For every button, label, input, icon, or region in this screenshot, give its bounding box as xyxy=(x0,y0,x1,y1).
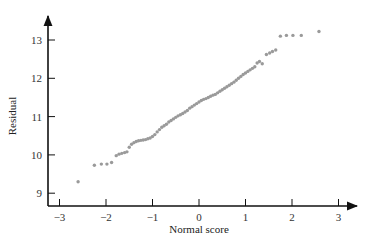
data-point xyxy=(279,34,282,37)
y-tick-label: 9 xyxy=(37,187,43,199)
data-point xyxy=(76,180,79,183)
data-point xyxy=(265,53,268,56)
data-point xyxy=(125,150,128,153)
data-point xyxy=(110,161,113,164)
data-point xyxy=(261,62,264,65)
x-axis-title: Normal score xyxy=(169,223,229,235)
data-point xyxy=(100,162,103,165)
points-layer xyxy=(76,30,320,184)
y-ticks: 910111213 xyxy=(31,34,55,199)
data-point xyxy=(285,34,288,37)
x-ticks: −3−2−10123 xyxy=(54,199,342,223)
data-point xyxy=(274,48,277,51)
y-axis-title: Residual xyxy=(6,97,18,136)
data-point xyxy=(317,30,320,33)
y-tick-label: 10 xyxy=(31,149,43,161)
x-tick-label: 3 xyxy=(336,211,342,223)
data-point xyxy=(128,146,131,149)
data-point xyxy=(300,34,303,37)
data-point xyxy=(271,50,274,53)
x-tick-label: −3 xyxy=(54,211,66,223)
x-tick-label: −1 xyxy=(147,211,159,223)
data-point xyxy=(105,162,108,165)
data-point xyxy=(253,65,256,68)
normal-probability-plot: 910111213 −3−2−10123 Normal score Residu… xyxy=(0,0,379,244)
y-tick-label: 13 xyxy=(31,34,43,46)
data-point xyxy=(93,164,96,167)
data-point xyxy=(291,34,294,37)
x-tick-label: 0 xyxy=(196,211,202,223)
x-tick-label: 2 xyxy=(289,211,295,223)
x-tick-label: 1 xyxy=(243,211,249,223)
data-point xyxy=(258,60,261,63)
y-tick-label: 11 xyxy=(31,111,42,123)
y-tick-label: 12 xyxy=(31,72,42,84)
x-tick-label: −2 xyxy=(100,211,112,223)
data-point xyxy=(153,133,156,136)
